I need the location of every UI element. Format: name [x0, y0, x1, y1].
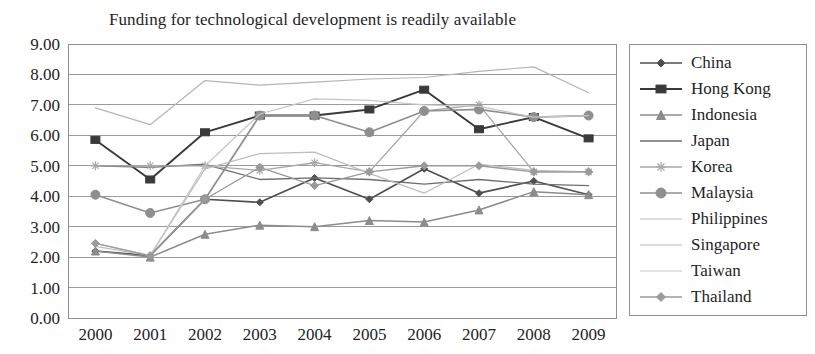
data-point-marker — [420, 86, 429, 93]
legend-swatch-icon — [638, 157, 684, 177]
legend-item-label: Malaysia — [691, 183, 753, 203]
data-series — [91, 188, 592, 261]
x-axis-tick-label: 2002 — [188, 325, 222, 344]
data-series — [91, 162, 592, 260]
data-point-marker — [366, 196, 373, 203]
legend-item-hong-kong[interactable]: Hong Kong — [630, 76, 806, 102]
y-axis-tick-labels: 0.001.002.003.004.005.006.007.008.009.00 — [30, 35, 60, 328]
legend-swatch-icon — [638, 79, 684, 99]
legend-item-label: Thailand — [691, 287, 751, 307]
data-point-marker — [91, 161, 100, 170]
y-axis-tick-label: 3.00 — [30, 218, 60, 237]
data-point-marker — [656, 162, 666, 172]
y-axis-tick-label: 6.00 — [30, 126, 60, 145]
legend-item-malaysia[interactable]: Malaysia — [630, 180, 806, 206]
x-axis-tick-labels: 2000200120022003200420052006200720082009 — [78, 325, 605, 344]
legend-swatch-icon — [638, 261, 684, 281]
data-point-marker — [255, 111, 264, 120]
legend-swatch-icon — [638, 287, 684, 307]
y-axis-tick-label: 0.00 — [30, 309, 60, 328]
data-point-marker — [584, 135, 593, 142]
data-point-marker — [475, 126, 484, 133]
data-point-marker — [657, 293, 666, 302]
data-point-marker — [365, 106, 374, 113]
y-axis-tick-label: 5.00 — [30, 157, 60, 176]
series-line — [95, 67, 588, 125]
data-series-group — [91, 67, 593, 261]
series-line — [95, 166, 588, 256]
data-point-marker — [146, 208, 155, 217]
data-point-marker — [311, 182, 319, 190]
x-axis-tick-label: 2005 — [352, 325, 386, 344]
legend-item-taiwan[interactable]: Taiwan — [630, 258, 806, 284]
x-axis-tick-label: 2008 — [517, 325, 551, 344]
x-axis-tick-label: 2000 — [78, 325, 112, 344]
x-axis-tick-label: 2001 — [133, 325, 167, 344]
legend-item-japan[interactable]: Japan — [630, 128, 806, 154]
y-axis-tick-label: 1.00 — [30, 279, 60, 298]
data-point-marker — [201, 129, 210, 136]
legend-item-korea[interactable]: Korea — [630, 154, 806, 180]
data-point-marker — [657, 59, 665, 67]
legend-item-label: Philippines — [691, 209, 768, 229]
y-axis-tick-label: 9.00 — [30, 35, 60, 54]
data-point-marker — [656, 85, 666, 93]
legend-item-philippines[interactable]: Philippines — [630, 206, 806, 232]
data-point-marker — [146, 161, 155, 170]
data-point-marker — [420, 106, 429, 115]
x-axis-tick-label: 2007 — [462, 325, 497, 344]
data-series — [91, 105, 593, 218]
legend-item-label: Taiwan — [691, 261, 741, 281]
chart-container: Funding for technological development is… — [0, 0, 815, 354]
legend-swatch-icon — [638, 131, 684, 151]
data-point-marker — [146, 176, 155, 183]
legend-swatch-icon — [638, 235, 684, 255]
x-axis-tick-label: 2009 — [572, 325, 606, 344]
legend-swatch-icon — [638, 209, 684, 229]
y-axis-tick-label: 4.00 — [30, 187, 60, 206]
data-point-marker — [365, 128, 374, 137]
x-axis-tick-label: 2006 — [407, 325, 441, 344]
data-point-marker — [91, 239, 99, 247]
x-axis-tick-label: 2004 — [298, 325, 333, 344]
legend-swatch-icon — [638, 105, 684, 125]
data-series — [95, 67, 588, 125]
legend-item-label: Singapore — [691, 235, 760, 255]
data-series — [95, 99, 588, 256]
legend-item-singapore[interactable]: Singapore — [630, 232, 806, 258]
data-point-marker — [310, 158, 319, 167]
x-axis-tick-label: 2003 — [243, 325, 277, 344]
data-point-marker — [476, 190, 483, 197]
data-point-marker — [256, 199, 263, 206]
legend-item-label: Indonesia — [691, 105, 757, 125]
y-axis-tick-label: 8.00 — [30, 65, 60, 84]
legend-item-label: China — [691, 53, 732, 73]
data-point-marker — [310, 111, 319, 120]
legend-swatch-icon — [638, 183, 684, 203]
legend-item-label: Korea — [691, 157, 733, 177]
series-line — [95, 99, 588, 256]
legend-swatch-icon — [638, 53, 684, 73]
legend-item-label: Japan — [691, 131, 730, 151]
data-point-marker — [475, 162, 483, 170]
data-point-marker — [91, 136, 100, 143]
legend-item-indonesia[interactable]: Indonesia — [630, 102, 806, 128]
legend-item-label: Hong Kong — [691, 79, 771, 99]
legend-item-thailand[interactable]: Thailand — [630, 284, 806, 310]
legend-item-china[interactable]: China — [630, 50, 806, 76]
y-axis-tick-label: 7.00 — [30, 96, 60, 115]
data-point-marker — [656, 188, 666, 198]
data-point-marker — [91, 190, 100, 199]
chart-legend: ChinaHong KongIndonesiaJapanKoreaMalaysi… — [629, 44, 807, 316]
y-axis-tick-label: 2.00 — [30, 248, 60, 267]
